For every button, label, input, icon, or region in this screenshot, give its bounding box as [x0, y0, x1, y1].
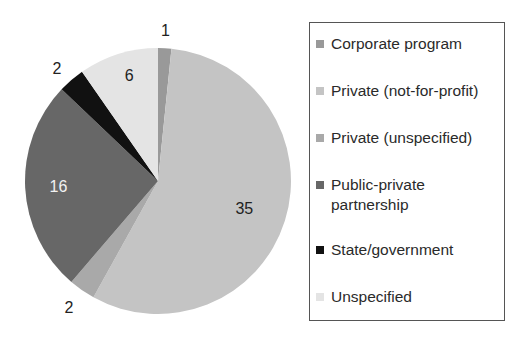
- legend-item-state-government: State/government: [316, 240, 453, 260]
- legend-swatch: [316, 293, 324, 301]
- pie-data-label: 2: [53, 60, 62, 77]
- pie-data-label: 6: [125, 67, 134, 84]
- pie-chart: 13521626: [0, 0, 300, 344]
- legend-swatch: [316, 87, 324, 95]
- legend-label: Private (unspecified): [331, 128, 472, 148]
- legend-swatch: [316, 246, 324, 254]
- legend-swatch: [316, 181, 324, 189]
- pie-data-label: 1: [161, 22, 170, 39]
- legend-item-private-not-for-profit: Private (not-for-profit): [316, 81, 478, 101]
- legend-swatch: [316, 134, 324, 142]
- legend-label: Public-private partnership: [331, 175, 425, 215]
- legend: Corporate program Private (not-for-profi…: [309, 22, 505, 321]
- legend-item-corporate-program: Corporate program: [316, 34, 462, 54]
- legend-item-public-private-partnership: Public-private partnership: [316, 175, 425, 215]
- pie-data-label: 16: [50, 178, 68, 195]
- legend-label: Corporate program: [331, 34, 462, 54]
- legend-item-unspecified: Unspecified: [316, 287, 412, 307]
- legend-item-private-unspecified: Private (unspecified): [316, 128, 472, 148]
- legend-label: State/government: [331, 240, 453, 260]
- pie-data-label: 35: [235, 200, 253, 217]
- legend-label: Unspecified: [331, 287, 412, 307]
- pie-data-label: 2: [64, 299, 73, 316]
- legend-label: Private (not-for-profit): [331, 81, 478, 101]
- legend-swatch: [316, 40, 324, 48]
